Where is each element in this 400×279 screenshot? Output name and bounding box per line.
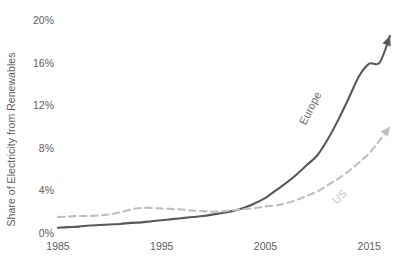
series-arrowhead-us bbox=[381, 127, 390, 137]
renewables-share-line-chart: Share of Electricity from Renewables 0%4… bbox=[0, 0, 400, 279]
plot-area bbox=[0, 0, 400, 279]
